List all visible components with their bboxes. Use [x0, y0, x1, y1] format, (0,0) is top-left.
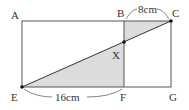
label-g: G [169, 91, 177, 103]
measurement-bc: 8cm [138, 3, 157, 15]
point-x [122, 40, 126, 44]
point-e [20, 85, 24, 89]
label-b: B [117, 7, 124, 19]
geometry-diagram: A B C E F G X 8cm 16cm [0, 0, 189, 110]
point-c [169, 19, 173, 23]
label-a: A [11, 9, 19, 21]
label-e: E [11, 91, 18, 103]
label-x: X [112, 49, 120, 61]
label-c: C [172, 7, 179, 19]
label-f: F [120, 91, 126, 103]
measurement-ef: 16cm [55, 91, 80, 103]
